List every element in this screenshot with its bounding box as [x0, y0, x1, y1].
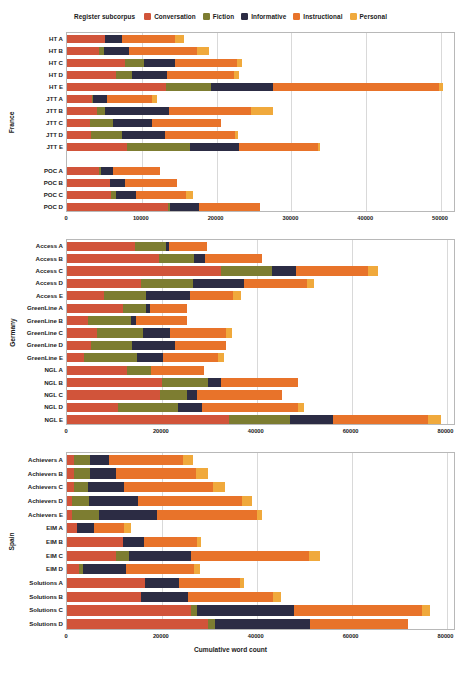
bar-segment-conversation[interactable] [67, 47, 99, 56]
legend-item-conversation[interactable]: Conversation [144, 13, 196, 20]
bar-row[interactable] [67, 564, 454, 574]
bar-row[interactable] [67, 605, 454, 615]
bar-segment-personal[interactable] [233, 291, 241, 300]
bar-segment-instructional[interactable] [157, 510, 258, 520]
bar-row[interactable] [67, 35, 454, 44]
legend-item-fiction[interactable]: Fiction [203, 13, 234, 20]
bar-segment-informative[interactable] [211, 83, 273, 92]
bar-segment-personal[interactable] [298, 403, 304, 412]
bar-segment-conversation[interactable] [67, 353, 84, 362]
bar-segment-conversation[interactable] [67, 390, 160, 399]
bar-segment-conversation[interactable] [67, 578, 145, 588]
bar-segment-informative[interactable] [144, 59, 175, 68]
bar-row[interactable] [67, 468, 454, 478]
bar-segment-informative[interactable] [89, 496, 137, 506]
bar-segment-instructional[interactable] [205, 254, 262, 263]
bar-segment-personal[interactable] [196, 468, 207, 478]
bar-segment-personal[interactable] [124, 523, 130, 533]
bar-segment-fiction[interactable] [84, 353, 137, 362]
bar-segment-conversation[interactable] [67, 266, 221, 275]
bar-segment-informative[interactable] [178, 403, 203, 412]
bar-segment-informative[interactable] [122, 131, 165, 140]
bar-row[interactable] [67, 291, 454, 300]
bar-segment-personal[interactable] [309, 551, 319, 561]
bar-segment-personal[interactable] [194, 564, 200, 574]
bar-row[interactable] [67, 537, 454, 547]
bar-row[interactable] [67, 328, 454, 337]
bar-segment-informative[interactable] [290, 415, 332, 424]
bar-segment-personal[interactable] [183, 455, 193, 465]
bar-row[interactable] [67, 415, 454, 424]
bar-segment-fiction[interactable] [221, 266, 272, 275]
bar-row[interactable] [67, 482, 454, 492]
bar-row[interactable] [67, 59, 454, 68]
bar-segment-personal[interactable] [226, 328, 232, 337]
bar-segment-informative[interactable] [215, 619, 310, 629]
bar-segment-fiction[interactable] [159, 254, 194, 263]
bar-segment-conversation[interactable] [67, 203, 168, 212]
bar-segment-conversation[interactable] [67, 179, 110, 188]
bar-segment-informative[interactable] [90, 455, 109, 465]
bar-segment-fiction[interactable] [90, 119, 112, 128]
bar-segment-informative[interactable] [190, 143, 239, 152]
bar-segment-conversation[interactable] [67, 551, 116, 561]
bar-row[interactable] [67, 119, 454, 128]
bar-segment-informative[interactable] [77, 523, 93, 533]
bar-segment-personal[interactable] [234, 71, 239, 80]
bar-segment-personal[interactable] [175, 35, 184, 44]
bar-row[interactable] [67, 592, 454, 602]
bar-row[interactable] [67, 71, 454, 80]
bar-segment-informative[interactable] [193, 279, 244, 288]
bar-segment-instructional[interactable] [116, 468, 197, 478]
bar-segment-informative[interactable] [146, 291, 190, 300]
bar-row[interactable] [67, 366, 454, 375]
bar-segment-informative[interactable] [116, 191, 135, 200]
bar-segment-conversation[interactable] [67, 254, 159, 263]
bar-segment-instructional[interactable] [175, 59, 237, 68]
bar-segment-conversation[interactable] [67, 366, 127, 375]
bar-segment-conversation[interactable] [67, 35, 105, 44]
bar-segment-conversation[interactable] [67, 468, 74, 478]
bar-segment-informative[interactable] [170, 203, 199, 212]
bar-segment-personal[interactable] [307, 279, 314, 288]
bar-segment-informative[interactable] [101, 167, 112, 176]
bar-segment-personal[interactable] [428, 415, 441, 424]
bar-segment-fiction[interactable] [91, 131, 122, 140]
bar-segment-personal[interactable] [273, 592, 281, 602]
bar-segment-conversation[interactable] [67, 95, 92, 104]
bar-segment-fiction[interactable] [72, 510, 100, 520]
bar-segment-informative[interactable] [187, 390, 197, 399]
bar-segment-fiction[interactable] [125, 59, 144, 68]
bar-segment-fiction[interactable] [141, 279, 193, 288]
bar-segment-instructional[interactable] [188, 592, 273, 602]
bar-segment-conversation[interactable] [67, 242, 135, 251]
bar-segment-personal[interactable] [251, 107, 273, 116]
bar-segment-instructional[interactable] [122, 35, 175, 44]
bar-segment-informative[interactable] [99, 510, 156, 520]
bar-segment-fiction[interactable] [88, 316, 131, 325]
bar-segment-personal[interactable] [218, 353, 223, 362]
bar-segment-fiction[interactable] [91, 341, 132, 350]
bar-segment-instructional[interactable] [150, 304, 188, 313]
bar-segment-conversation[interactable] [67, 341, 91, 350]
bar-row[interactable] [67, 143, 454, 152]
bar-segment-instructional[interactable] [136, 191, 186, 200]
bar-segment-conversation[interactable] [67, 119, 90, 128]
bar-segment-informative[interactable] [129, 551, 191, 561]
bar-segment-fiction[interactable] [123, 304, 146, 313]
bar-segment-informative[interactable] [90, 468, 116, 478]
bar-segment-personal[interactable] [257, 510, 262, 520]
bar-row[interactable] [67, 304, 454, 313]
bar-segment-instructional[interactable] [107, 95, 152, 104]
bar-row[interactable] [67, 47, 454, 56]
bar-segment-informative[interactable] [104, 47, 129, 56]
bar-segment-conversation[interactable] [67, 378, 162, 387]
bar-segment-instructional[interactable] [94, 523, 125, 533]
bar-row[interactable] [67, 523, 454, 533]
bar-segment-personal[interactable] [197, 47, 209, 56]
bar-row[interactable] [67, 107, 454, 116]
bar-segment-fiction[interactable] [72, 496, 90, 506]
bar-segment-conversation[interactable] [67, 291, 104, 300]
bar-segment-informative[interactable] [197, 605, 294, 615]
bar-segment-informative[interactable] [145, 578, 179, 588]
